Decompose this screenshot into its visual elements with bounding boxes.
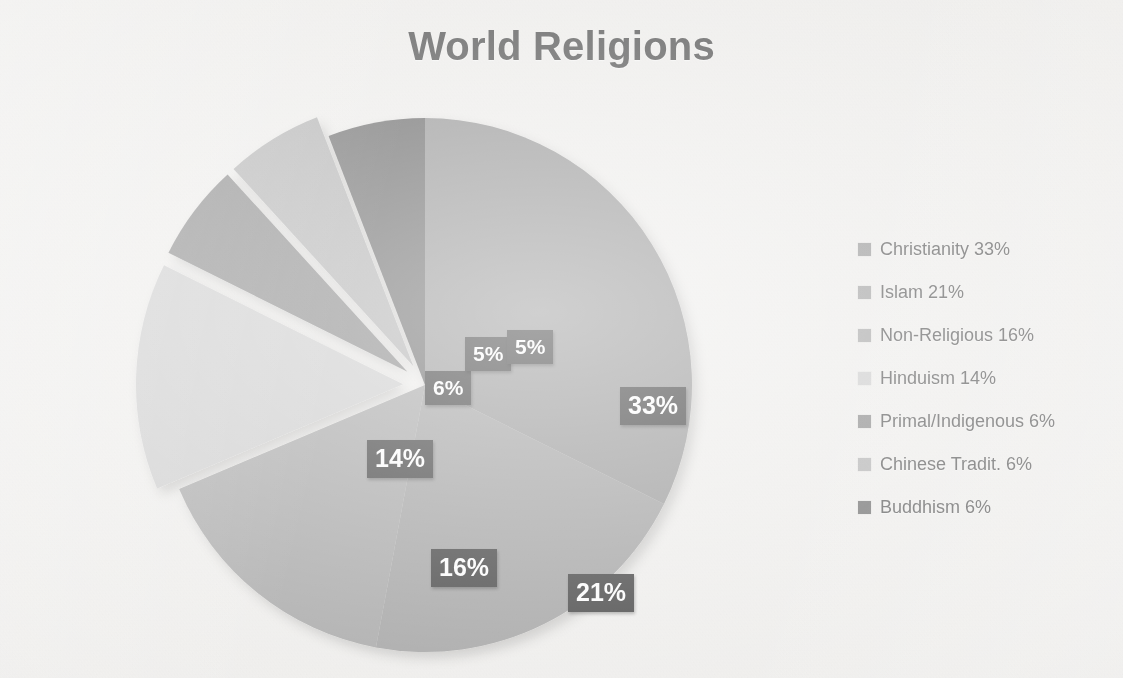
pie-chart: 33%21%16%14%6%5%5% xyxy=(120,92,740,672)
legend-item-label: Hinduism 14% xyxy=(880,368,996,389)
legend-item-label: Islam 21% xyxy=(880,282,964,303)
pie-data-label: 33% xyxy=(620,387,686,425)
legend-item[interactable]: Islam 21% xyxy=(858,271,1108,314)
legend-item[interactable]: Chinese Tradit. 6% xyxy=(858,443,1108,486)
legend-item-label: Primal/Indigenous 6% xyxy=(880,411,1055,432)
pie-data-label: 5% xyxy=(507,330,553,364)
legend-item-label: Chinese Tradit. 6% xyxy=(880,454,1032,475)
legend-item[interactable]: Hinduism 14% xyxy=(858,357,1108,400)
legend-swatch-icon xyxy=(858,415,871,428)
chart-title: World Religions xyxy=(0,24,1123,69)
legend-swatch-icon xyxy=(858,372,871,385)
chart-legend: Christianity 33%Islam 21%Non-Religious 1… xyxy=(858,228,1108,529)
legend-swatch-icon xyxy=(858,243,871,256)
pie-data-label: 5% xyxy=(465,337,511,371)
legend-item-label: Non-Religious 16% xyxy=(880,325,1034,346)
legend-swatch-icon xyxy=(858,501,871,514)
legend-item[interactable]: Primal/Indigenous 6% xyxy=(858,400,1108,443)
legend-swatch-icon xyxy=(858,458,871,471)
legend-item[interactable]: Non-Religious 16% xyxy=(858,314,1108,357)
legend-item-label: Christianity 33% xyxy=(880,239,1010,260)
slide-canvas: World Religions 33%21%16%14%6%5%5% Chris… xyxy=(0,0,1123,678)
legend-swatch-icon xyxy=(858,286,871,299)
legend-item[interactable]: Christianity 33% xyxy=(858,228,1108,271)
pie-slice-group xyxy=(136,117,692,652)
legend-item-label: Buddhism 6% xyxy=(880,497,991,518)
pie-data-label: 14% xyxy=(367,440,433,478)
legend-item[interactable]: Buddhism 6% xyxy=(858,486,1108,529)
pie-data-label: 21% xyxy=(568,574,634,612)
pie-data-label: 6% xyxy=(425,371,471,405)
pie-data-label: 16% xyxy=(431,549,497,587)
legend-swatch-icon xyxy=(858,329,871,342)
